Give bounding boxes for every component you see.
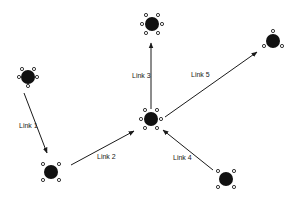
node-a [17,67,38,87]
link-label-5: Link 5 [191,71,210,78]
node-body-icon [219,172,233,186]
node-port-icon [139,117,142,120]
node-port-icon [216,169,219,172]
node-port-icon [140,22,143,25]
node-port-icon [35,75,38,78]
node-port-icon [262,44,265,47]
node-port-icon [26,84,29,87]
links-layer [24,43,257,170]
link-label-3: Link 3 [132,72,151,79]
network-diagram [0,0,299,199]
node-port-icon [160,22,163,25]
node-body-icon [44,165,58,179]
node-port-icon [156,31,159,34]
node-port-icon [155,126,158,129]
node-port-icon [216,185,219,188]
link-label-2: Link 2 [97,153,116,160]
node-body-icon [144,112,158,126]
node-port-icon [57,178,60,181]
node-port-icon [144,13,147,16]
node-port-icon [144,31,147,34]
node-port-icon [232,185,235,188]
node-port-icon [20,67,23,70]
node-f [216,169,235,188]
link-arrow-5 [165,52,257,117]
node-port-icon [57,162,60,165]
node-port-icon [17,75,20,78]
node-b [140,13,163,34]
node-body-icon [145,17,159,31]
node-port-icon [156,13,159,16]
link-label-1: Link 1 [19,122,38,129]
node-e [41,162,60,181]
node-port-icon [41,178,44,181]
node-port-icon [159,117,162,120]
node-body-icon [21,70,35,84]
node-port-icon [143,108,146,111]
node-port-icon [232,169,235,172]
node-body-icon [266,34,280,48]
node-port-icon [280,44,283,47]
node-port-icon [155,108,158,111]
node-port-icon [41,162,44,165]
node-port-icon [143,126,146,129]
node-port-icon [271,29,274,32]
link-label-4: Link 4 [173,154,192,161]
node-d [139,108,162,129]
node-port-icon [32,67,35,70]
node-c [262,29,283,48]
link-arrow-4 [163,130,213,170]
